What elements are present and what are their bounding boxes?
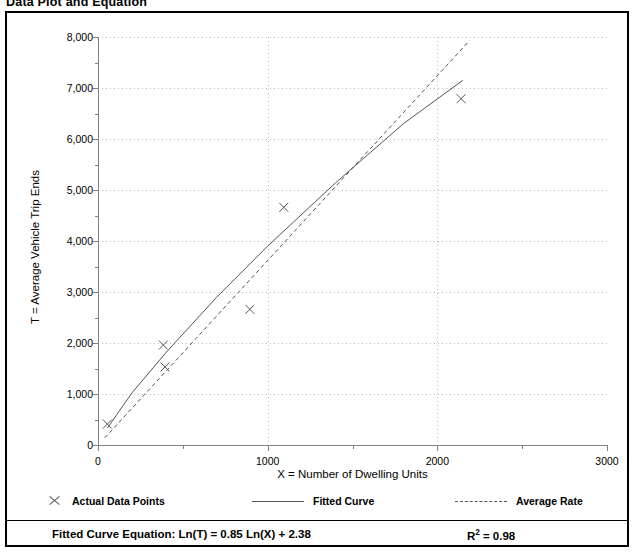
- x-axis-tick-label: 0: [95, 455, 101, 467]
- y-axis-tick-label: 2,000: [67, 337, 93, 349]
- x-axis-tick: [607, 445, 608, 451]
- legend-label: Actual Data Points: [72, 495, 165, 507]
- r-squared-value: R2= 0.98: [467, 528, 515, 542]
- legend-item-actual-data-points: Actual Data Points: [47, 495, 165, 507]
- y-axis-tick-label: 1,000: [67, 388, 93, 400]
- x-axis-tick: [437, 445, 438, 451]
- x-marker-icon: [47, 495, 63, 507]
- average-rate-line: [105, 41, 470, 438]
- plot-area: 01,0002,0003,0004,0005,0006,0007,0008,00…: [98, 37, 607, 445]
- y-axis-tick-label: 5,000: [67, 184, 93, 196]
- solid-line-icon: [252, 501, 304, 502]
- legend-label: Fitted Curve: [313, 495, 374, 507]
- x-axis-tick-label: 1000: [256, 455, 279, 467]
- x-axis-minor-tick: [522, 445, 523, 449]
- data-point-marker: [279, 203, 288, 212]
- x-axis-minor-tick: [183, 445, 184, 449]
- data-point-marker: [245, 305, 254, 314]
- x-axis-title: X = Number of Dwelling Units: [98, 468, 607, 480]
- y-axis-tick-label: 7,000: [67, 82, 93, 94]
- r-squared-exponent: 2: [475, 528, 480, 537]
- legend-item-average-rate: Average Rate: [455, 495, 583, 507]
- data-point-group: [103, 94, 466, 428]
- y-axis-tick-label: 6,000: [67, 133, 93, 145]
- y-axis-tick-label: 3,000: [67, 286, 93, 298]
- x-axis-minor-tick: [353, 445, 354, 449]
- r-squared-number: = 0.98: [483, 530, 515, 542]
- y-axis-tick-label: 4,000: [67, 235, 93, 247]
- plot-region: T = Average Vehicle Trip Ends X = Number…: [7, 13, 627, 483]
- x-axis-tick-label: 3000: [595, 455, 618, 467]
- page-title: Data Plot and Equation: [6, 0, 147, 9]
- y-axis-title: T = Average Vehicle Trip Ends: [29, 97, 41, 397]
- y-axis-tick-label: 8,000: [67, 31, 93, 43]
- figure-frame: T = Average Vehicle Trip Ends X = Number…: [5, 11, 629, 547]
- fitted-curve-equation: Fitted Curve Equation: Ln(T) = 0.85 Ln(X…: [52, 528, 311, 540]
- x-axis-tick: [98, 445, 99, 451]
- fitted-curve-line: [107, 80, 462, 428]
- series-layer: [98, 37, 607, 445]
- data-point-marker: [457, 94, 466, 103]
- y-axis-tick-label: 0: [87, 439, 93, 451]
- legend-item-fitted-curve: Fitted Curve: [252, 495, 374, 507]
- legend-label: Average Rate: [516, 495, 583, 507]
- chart-legend: Actual Data Points Fitted Curve Average …: [7, 493, 627, 515]
- data-point-marker: [159, 341, 168, 350]
- x-axis-tick-label: 2000: [426, 455, 449, 467]
- x-axis-tick: [268, 445, 269, 451]
- equation-row: Fitted Curve Equation: Ln(T) = 0.85 Ln(X…: [7, 521, 627, 547]
- data-point-marker: [161, 362, 170, 371]
- dashed-line-icon: [455, 501, 507, 502]
